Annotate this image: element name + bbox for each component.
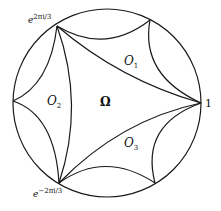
hyperbolic-disk-diagram: e2πi/3 e−2πi/3 1 Ω O1 O2 O3 [0,0,221,211]
vertex-label-top-left: e2πi/3 [28,13,51,25]
vertex-label-bottom-left: e−2πi/3 [33,187,62,199]
region-label-omega: Ω [100,95,111,109]
region-label-o1: O1 [124,54,138,70]
o2-edge-bottom [13,101,59,183]
region-label-o3: O3 [124,136,138,152]
vertex-label-one: 1 [205,97,212,110]
o1-edge-right [149,20,201,103]
o1-edge-left [57,20,150,39]
region-label-o2: O2 [47,94,61,110]
o2-edge-top [13,26,57,101]
